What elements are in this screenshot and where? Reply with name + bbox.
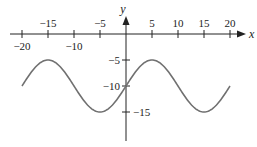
x-axis-arrow-icon [237,31,246,38]
sine-chart: x −20 −15 −10 −5 5 10 15 20 y −5 [0,0,257,147]
x-axis-label: x [248,27,255,41]
y-tick-label: −15 [133,106,151,118]
y-tick-label: −5 [108,54,120,66]
x-tick-label: −15 [39,17,57,29]
y-axis-arrow-icon [123,16,130,25]
x-tick-label: −20 [13,40,31,52]
x-axis: x −20 −15 −10 −5 5 10 15 20 [10,17,255,52]
x-tick-label: 15 [199,17,211,29]
y-axis-label: y [119,2,126,16]
x-tick-label: 5 [149,17,155,29]
x-tick-label: −10 [65,40,83,52]
y-axis: y −5 −10 −15 [103,2,151,141]
x-tick-label: 10 [173,17,185,29]
x-tick-label: 20 [225,17,237,29]
y-tick-label: −10 [103,80,121,92]
x-tick-label: −5 [94,17,106,29]
